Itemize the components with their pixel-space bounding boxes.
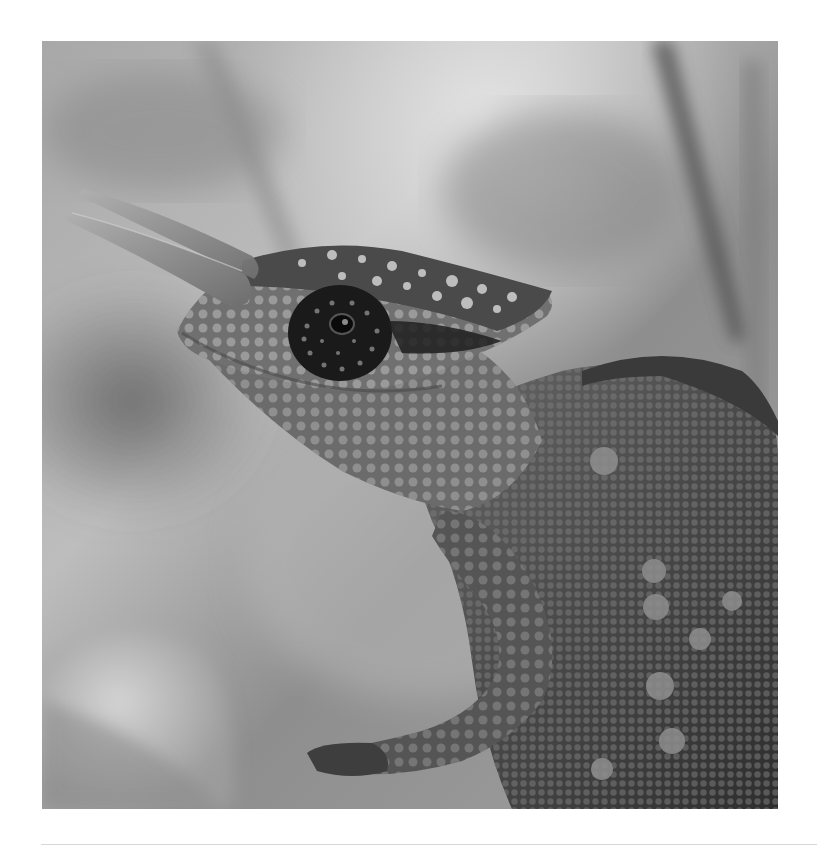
bottom-divider [41,844,817,845]
photo-rendering [42,41,778,809]
chameleon-photo: Black and white close-up photograph of a… [42,41,778,809]
